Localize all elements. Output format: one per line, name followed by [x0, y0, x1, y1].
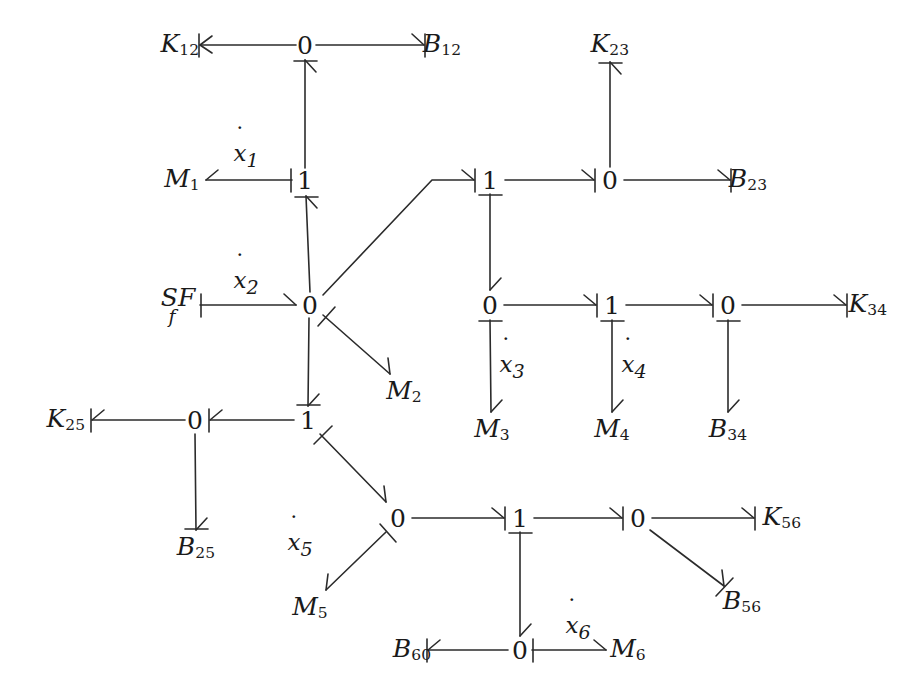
element-M5-sub: 5 [318, 604, 328, 622]
element-M5[interactable]: M5 [292, 594, 328, 622]
arrowhead-half [728, 400, 739, 412]
element-K23[interactable]: K23 [591, 31, 630, 59]
bond-0k56-to-K56 [652, 507, 755, 530]
junction-0-center[interactable]: 0 [302, 293, 318, 318]
element-B56[interactable]: B56 [723, 588, 762, 616]
bond-0center-to-1x1 [295, 196, 318, 292]
element-K25[interactable]: K25 [47, 406, 86, 434]
element-B23-sub: 23 [747, 176, 767, 194]
element-K34-sub: 34 [867, 301, 887, 319]
bond-0k23-to-K23 [599, 62, 622, 167]
element-B12[interactable]: B12 [423, 31, 462, 59]
junction-1-x6[interactable]: 1 [512, 506, 528, 531]
element-M6[interactable]: M6 [610, 636, 646, 664]
bond-0k23-to-B23 [624, 169, 731, 192]
arrowhead-half [612, 400, 623, 412]
element-K56-base: K [763, 502, 782, 531]
bond-1x1-to-0top [294, 60, 317, 168]
bond-0top-to-B12 [316, 34, 425, 57]
element-M2[interactable]: M2 [386, 378, 422, 406]
bond-label-xdot6-sub: 6 [578, 621, 590, 644]
bond-1left-to-0k25 [209, 409, 294, 432]
junction-1-x4[interactable]: 1 [604, 293, 620, 318]
element-M2-sub: 2 [412, 388, 422, 406]
bond-1x6-to-0k56 [534, 507, 623, 530]
bond-label-xdot1: x1 [233, 142, 258, 170]
bond-1x1-to-M1 [206, 169, 292, 192]
bond-0top-to-K12 [199, 34, 296, 57]
element-B12-base: B [423, 29, 441, 58]
bond-0k25-to-B25 [185, 434, 208, 530]
bond-label-xdot2-sub: 2 [246, 276, 258, 299]
element-M4[interactable]: M4 [594, 416, 630, 444]
element-B25[interactable]: B25 [177, 534, 216, 562]
element-K34[interactable]: K34 [849, 291, 888, 319]
bond-1x4-to-0b34 [626, 294, 713, 317]
element-K56-sub: 56 [781, 514, 801, 532]
element-M1[interactable]: M1 [164, 166, 200, 194]
element-K34-base: K [849, 289, 868, 318]
bond-0x3-to-1x4 [504, 294, 597, 317]
bond-graph-diagram: 0 1 0 1 0 1 0 0 1 0 0 1 0 0 K12 B12 M1 K… [0, 0, 922, 696]
element-M3-base: M [474, 414, 500, 443]
junction-0-k23[interactable]: 0 [602, 168, 618, 193]
element-M4-base: M [594, 414, 620, 443]
element-B12-sub: 12 [441, 41, 461, 59]
element-M5-base: M [292, 592, 318, 621]
element-B34[interactable]: B34 [709, 416, 748, 444]
bond-label-xdot3-sub: 3 [512, 360, 524, 383]
arrowhead-half [742, 508, 754, 518]
junction-0-k56[interactable]: 0 [630, 506, 646, 531]
bond-label-xdot2-base: x [233, 269, 246, 292]
junction-1-x1[interactable]: 1 [297, 168, 313, 193]
bond-label-xdot4: x4 [621, 353, 646, 381]
element-K56[interactable]: K56 [763, 504, 802, 532]
arrowhead-half [490, 278, 501, 290]
bond-label-xdot6-base: x [565, 614, 578, 637]
element-M6-base: M [610, 634, 636, 663]
bond-0center-to-M2 [318, 307, 390, 374]
bond-label-xdot6: x6 [565, 614, 590, 642]
junction-0-k25[interactable]: 0 [187, 408, 203, 433]
junction-1-x2b[interactable]: 1 [482, 168, 498, 193]
element-M3-sub: 3 [500, 426, 510, 444]
element-B60-base: B [393, 634, 411, 663]
bond-1x2b-to-0x3 [479, 194, 502, 290]
arrowhead-half [284, 294, 296, 305]
source-flow-label: SF [161, 285, 195, 310]
bond-1x6-to-0bottom [509, 532, 532, 636]
bond-lines-layer [0, 0, 922, 696]
bond-1left-to-0x5 [314, 426, 386, 502]
element-B23[interactable]: B23 [729, 166, 768, 194]
bond-label-xdot3-base: x [499, 353, 512, 376]
arrowhead-half [210, 410, 222, 420]
arrowhead-half [722, 570, 724, 586]
bond-0k25-to-K25 [91, 409, 185, 432]
element-M3[interactable]: M3 [474, 416, 510, 444]
junction-0-bottom[interactable]: 0 [512, 638, 528, 663]
element-K12[interactable]: K12 [161, 31, 200, 59]
element-B34-base: B [709, 414, 727, 443]
element-K23-sub: 23 [609, 41, 629, 59]
junction-0-x3[interactable]: 0 [482, 293, 498, 318]
arrowhead-half [594, 640, 606, 650]
arrowhead-half [582, 170, 594, 180]
element-B56-sub: 56 [741, 598, 761, 616]
arrowhead-half [700, 295, 712, 305]
arrowhead-half [834, 295, 846, 305]
junction-1-left[interactable]: 1 [300, 408, 316, 433]
bond-label-xdot5-sub: 5 [300, 538, 312, 561]
junction-0-top[interactable]: 0 [297, 33, 313, 58]
element-B60[interactable]: B60 [393, 636, 432, 664]
bond-0center-to-1left [297, 318, 320, 406]
bond-label-xdot2: x2 [233, 269, 258, 297]
causality-stroke [314, 426, 332, 444]
bond-0b34-to-K34 [742, 294, 847, 317]
junction-0-b34[interactable]: 0 [720, 293, 736, 318]
element-K23-base: K [591, 29, 610, 58]
source-flow-SF[interactable]: SF f [161, 285, 195, 326]
element-B56-base: B [723, 586, 741, 615]
bond-0b34-to-B34 [717, 320, 740, 412]
element-B34-sub: 34 [727, 426, 747, 444]
junction-0-x5[interactable]: 0 [390, 506, 406, 531]
